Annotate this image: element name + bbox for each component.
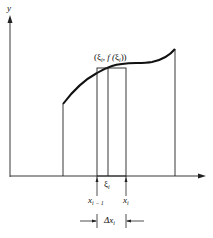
delta-x-label-text: Δx bbox=[104, 215, 113, 225]
x-left-label: xi − 1 bbox=[88, 196, 104, 206]
point-label: (ξi, f (ξi)) bbox=[94, 53, 127, 63]
x-right-label: xi bbox=[123, 196, 129, 206]
x-left-arrow-icon bbox=[96, 177, 99, 182]
delta-right-arrow-icon bbox=[126, 220, 131, 223]
x-right-arrow-icon bbox=[125, 177, 128, 182]
delta-left-arrow-icon bbox=[92, 220, 97, 223]
point-label-close: )) bbox=[121, 52, 127, 62]
x-right-label-sub: i bbox=[127, 200, 129, 206]
riemann-rectangle bbox=[97, 68, 126, 176]
xi-label-sub: i bbox=[108, 184, 110, 190]
delta-x-label: Δxi bbox=[104, 216, 115, 226]
delta-x-label-sub: i bbox=[113, 220, 115, 226]
x-axis-arrow-icon bbox=[198, 174, 206, 179]
point-label-sep: , f ( bbox=[103, 52, 115, 62]
y-axis-label: y bbox=[7, 4, 11, 13]
x-left-label-sub: i − 1 bbox=[92, 200, 104, 206]
y-axis-arrow-icon bbox=[8, 15, 13, 23]
xi-label: ξi bbox=[104, 180, 110, 190]
riemann-diagram bbox=[0, 0, 213, 238]
